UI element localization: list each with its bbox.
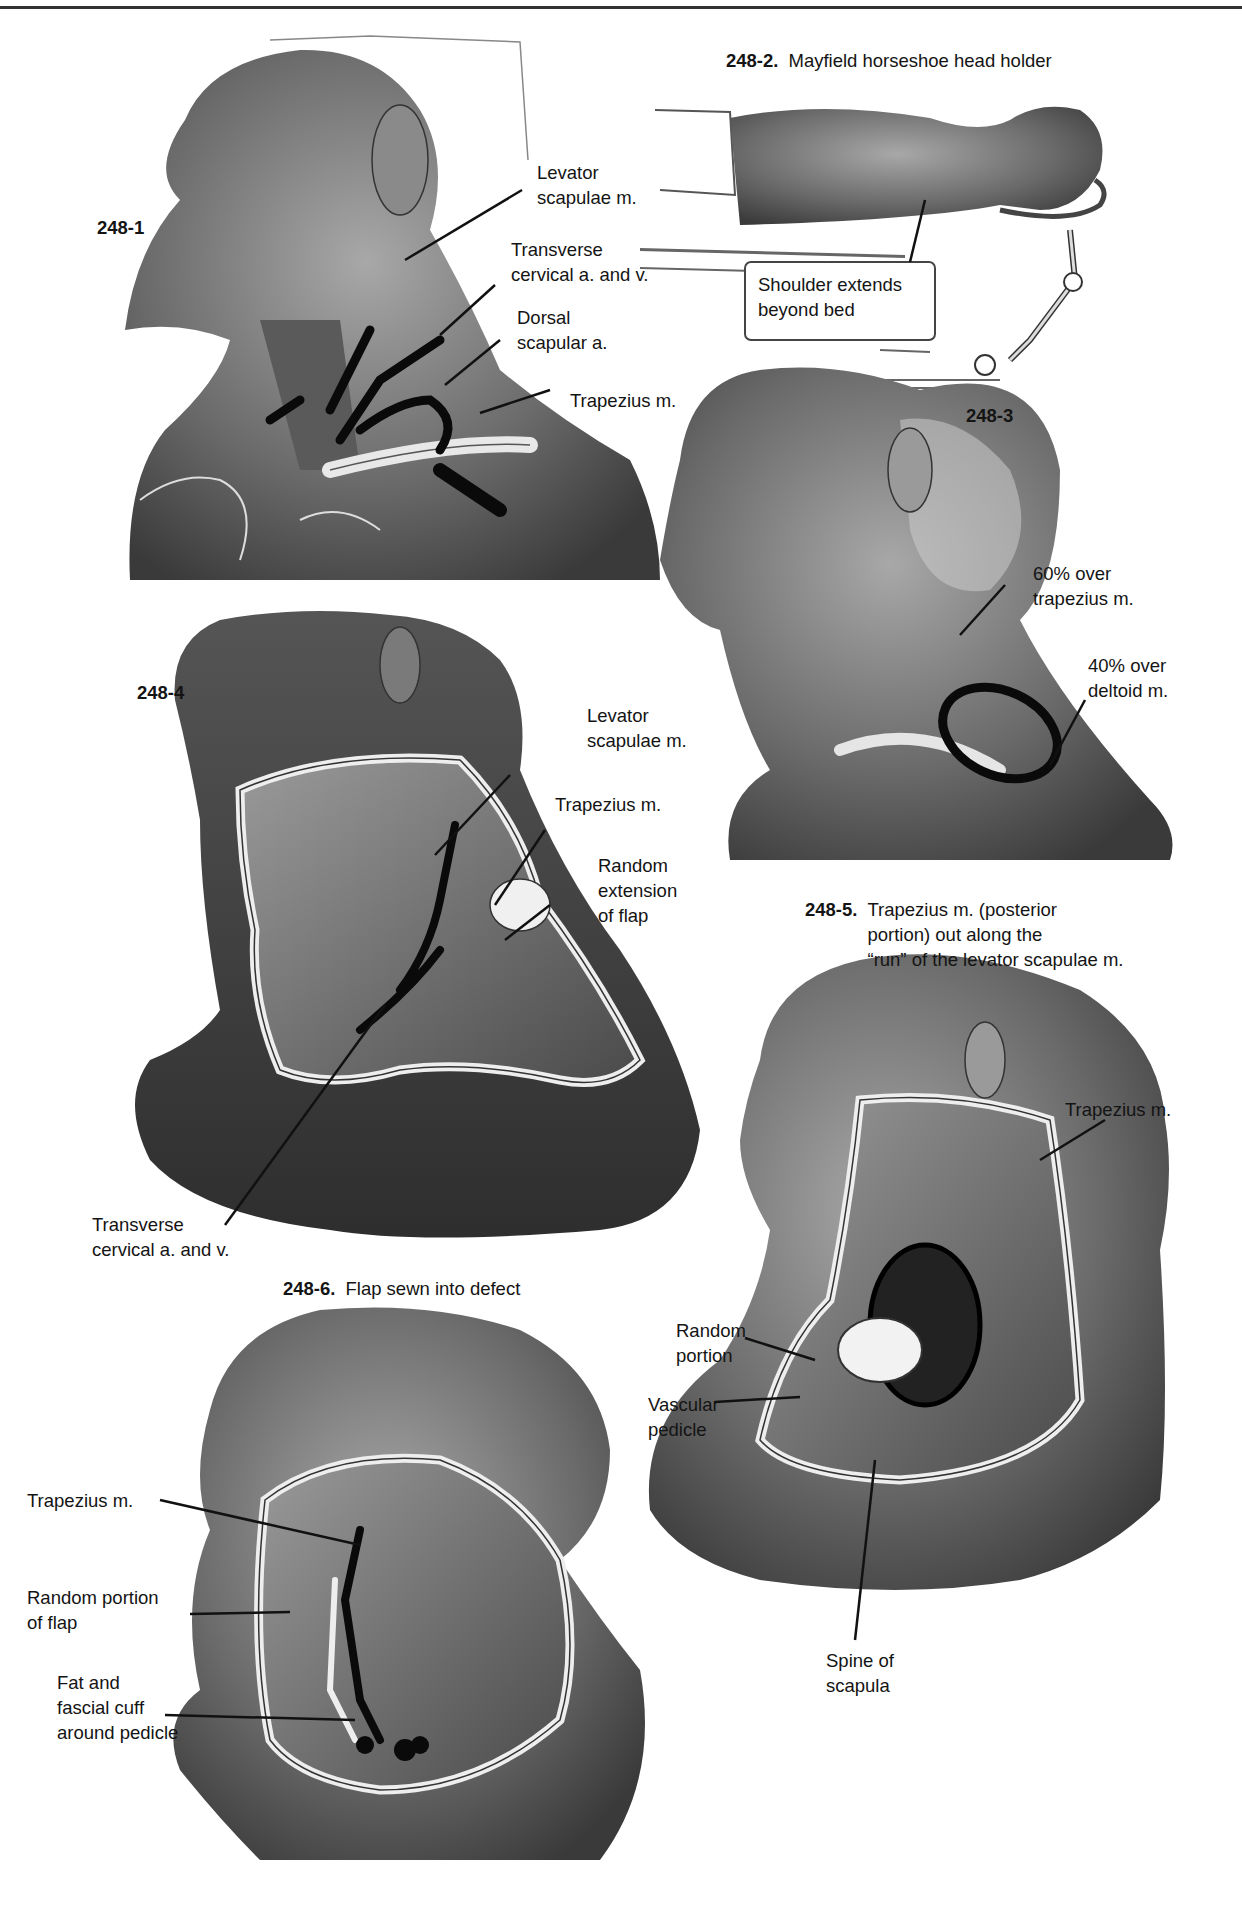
label-random-extension: Random extension of flap <box>598 853 677 928</box>
label-trapezius: Trapezius m. <box>1065 1097 1171 1122</box>
label-vascular-pedicle: Vascular pedicle <box>648 1392 719 1442</box>
label-spine-of-scapula: Spine of scapula <box>826 1648 894 1698</box>
label-trapezius: Trapezius m. <box>27 1488 133 1513</box>
figure-248-6-illustration <box>160 1308 645 1861</box>
label-60-trapezius: 60% over trapezius m. <box>1033 561 1134 611</box>
label-dorsal-scapular: Dorsal scapular a. <box>517 305 608 355</box>
label-trapezius: Trapezius m. <box>555 792 661 817</box>
caption-248-6: 248-6.Flap sewn into defect <box>283 1276 520 1301</box>
caption-248-5: 248-5.Trapezius m. (posterior portion) o… <box>805 897 1124 972</box>
figure-number-248-6: 248-6. <box>283 1278 335 1299</box>
figure-number-248-4: 248-4 <box>137 682 184 704</box>
caption-text: Trapezius m. (posterior portion) out alo… <box>867 897 1123 972</box>
figure-248-2-illustration <box>640 107 1104 388</box>
figure-number-248-3: 248-3 <box>966 405 1013 427</box>
label-levator-scapulae: Levator scapulae m. <box>587 703 687 753</box>
label-40-deltoid: 40% over deltoid m. <box>1088 653 1168 703</box>
label-trapezius: Trapezius m. <box>570 388 676 413</box>
label-fat-fascial-cuff: Fat and fascial cuff around pedicle <box>57 1670 178 1745</box>
label-transverse-cervical: Transverse cervical a. and v. <box>511 237 648 287</box>
label-levator-scapulae: Levator scapulae m. <box>537 160 637 210</box>
figure-number-248-1: 248-1 <box>97 217 144 239</box>
figure-248-3-illustration <box>660 368 1173 861</box>
label-random-portion-of-flap: Random portion of flap <box>27 1585 159 1635</box>
label-shoulder-extends: Shoulder extends beyond bed <box>758 272 902 322</box>
caption-text: Mayfield horseshoe head holder <box>788 50 1051 71</box>
figure-number-248-2: 248-2. <box>726 50 778 71</box>
caption-248-2: 248-2.Mayfield horseshoe head holder <box>726 48 1052 73</box>
label-transverse-cervical: Transverse cervical a. and v. <box>92 1212 229 1262</box>
figure-248-5-illustration <box>649 954 1169 1640</box>
caption-text: Flap sewn into defect <box>345 1278 520 1299</box>
label-random-portion: Random portion <box>676 1318 746 1368</box>
figure-number-248-5: 248-5. <box>805 899 857 920</box>
